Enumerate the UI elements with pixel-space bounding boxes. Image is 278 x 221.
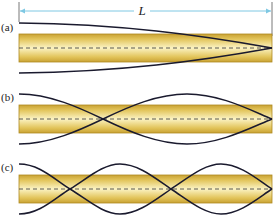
panel-a: (a): [1, 21, 272, 73]
arrowhead-left-icon: [20, 9, 25, 14]
panel-c: (c): [1, 161, 272, 214]
panel-label-a: (a): [1, 21, 14, 34]
length-label: L: [137, 3, 145, 18]
panel-label-b: (b): [1, 91, 14, 104]
arrowhead-right-icon: [266, 9, 271, 14]
standing-wave-diagram: L (a) (b) (c): [0, 0, 278, 221]
length-dimension: L: [19, 2, 272, 36]
panel-label-c: (c): [1, 161, 14, 174]
panel-b: (b): [1, 91, 272, 144]
